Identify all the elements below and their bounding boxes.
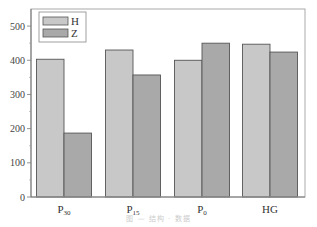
- figure-caption: 图 — 结构 · 数据: [0, 213, 317, 223]
- bar-h-p15: [106, 50, 134, 197]
- bar-z-p0: [202, 43, 230, 197]
- bar-z-p30: [64, 133, 92, 197]
- legend: H Z: [39, 12, 86, 42]
- legend-label-h: H: [71, 15, 79, 27]
- y-tick-label: 300: [10, 89, 25, 100]
- legend-label-z: Z: [71, 27, 78, 39]
- bar-h-hg: [243, 44, 271, 197]
- legend-swatch-z: [43, 29, 68, 37]
- bar-h-p0: [175, 60, 203, 197]
- bar-z-hg: [270, 52, 298, 197]
- bar-h-p30: [37, 59, 65, 197]
- legend-swatch-h: [43, 17, 68, 25]
- y-tick-label: 200: [10, 123, 25, 134]
- bar-z-p15: [133, 75, 161, 197]
- y-tick-label: 500: [10, 21, 25, 32]
- y-tick-label: 0: [20, 192, 25, 203]
- y-axis: 0100200300400500: [10, 9, 31, 203]
- y-tick-label: 400: [10, 55, 25, 66]
- bars-group: [37, 43, 298, 197]
- y-tick-label: 100: [10, 157, 25, 168]
- bar-chart: 0100200300400500 P30P15P0HG H Z: [0, 0, 317, 227]
